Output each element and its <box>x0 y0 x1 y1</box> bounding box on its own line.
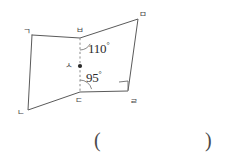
angle-value-110: 110° <box>88 42 109 55</box>
geometry-figure: ㄱ ㅂ ㅁ ㄹ ㄷ ㄴ ㅅ 110° 95° ( ) <box>0 0 227 164</box>
answer-close-paren: ) <box>205 130 212 150</box>
vertex-label-r: ㄹ <box>130 97 138 106</box>
vertex-label-n: ㄴ <box>17 108 25 117</box>
vertex-label-m: ㅁ <box>139 10 147 19</box>
angle-value-95: 95° <box>86 71 102 84</box>
vertex-label-d: ㄷ <box>75 96 83 105</box>
angle-95-number: 95 <box>86 70 99 85</box>
answer-open-paren: ( <box>94 130 101 150</box>
figure-svg <box>0 0 227 164</box>
angle-110-number: 110 <box>88 41 106 56</box>
point-label-s: ㅅ <box>65 61 73 70</box>
vertex-label-b: ㅂ <box>76 26 84 35</box>
angle-95-degree-symbol: ° <box>99 70 102 79</box>
vertex-label-g: ㄱ <box>23 27 31 36</box>
angle-110-degree-symbol: ° <box>106 41 109 50</box>
point-S-dot <box>78 64 82 68</box>
right-angle-mark-at-R <box>119 81 128 90</box>
